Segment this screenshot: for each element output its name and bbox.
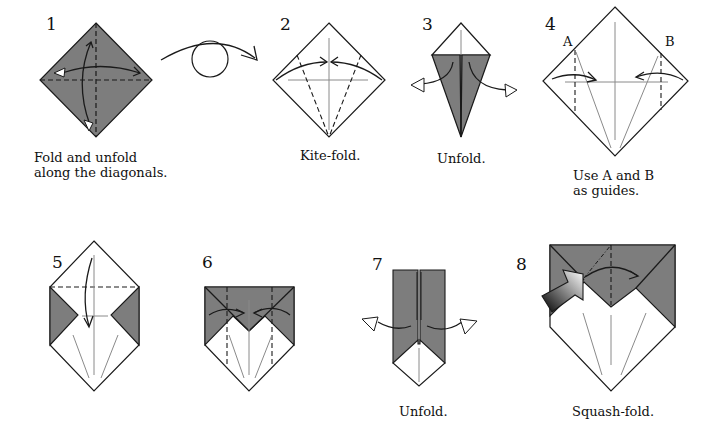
guide-label-a: A bbox=[563, 34, 572, 49]
step-4-caption-line-2: as guides. bbox=[573, 183, 654, 198]
step-8-number: 8 bbox=[516, 254, 527, 274]
origami-diagram bbox=[0, 0, 723, 424]
step-4-number: 4 bbox=[545, 14, 556, 34]
step-4-diagram bbox=[543, 7, 688, 156]
step-3-number: 3 bbox=[422, 14, 433, 34]
guide-label-b: B bbox=[665, 34, 675, 49]
step-7-caption: Unfold. bbox=[399, 404, 448, 419]
step-1-caption-line-2: along the diagonals. bbox=[34, 165, 167, 180]
step-5-number: 5 bbox=[52, 252, 63, 272]
step-2-diagram bbox=[273, 23, 385, 137]
step-1-diagram bbox=[40, 23, 152, 137]
step-3-diagram bbox=[411, 23, 517, 137]
step-6-diagram bbox=[205, 287, 294, 391]
step-7-number: 7 bbox=[372, 254, 383, 274]
step-4-caption-line-1: Use A and B bbox=[573, 168, 654, 183]
step-2-caption: Kite-fold. bbox=[300, 148, 360, 163]
step-4-caption: Use A and B as guides. bbox=[573, 168, 654, 198]
step-7-diagram bbox=[362, 270, 477, 386]
step-1-caption-line-1: Fold and unfold bbox=[34, 150, 167, 165]
step-6-number: 6 bbox=[202, 252, 213, 272]
step-2-number: 2 bbox=[280, 14, 291, 34]
step-8-diagram bbox=[542, 245, 675, 391]
turn-over-icon bbox=[161, 41, 257, 77]
step-5-diagram bbox=[50, 241, 139, 391]
step-1-caption: Fold and unfold along the diagonals. bbox=[34, 150, 167, 180]
step-3-caption: Unfold. bbox=[437, 151, 486, 166]
step-8-caption: Squash-fold. bbox=[572, 404, 654, 419]
step-1-number: 1 bbox=[46, 14, 57, 34]
